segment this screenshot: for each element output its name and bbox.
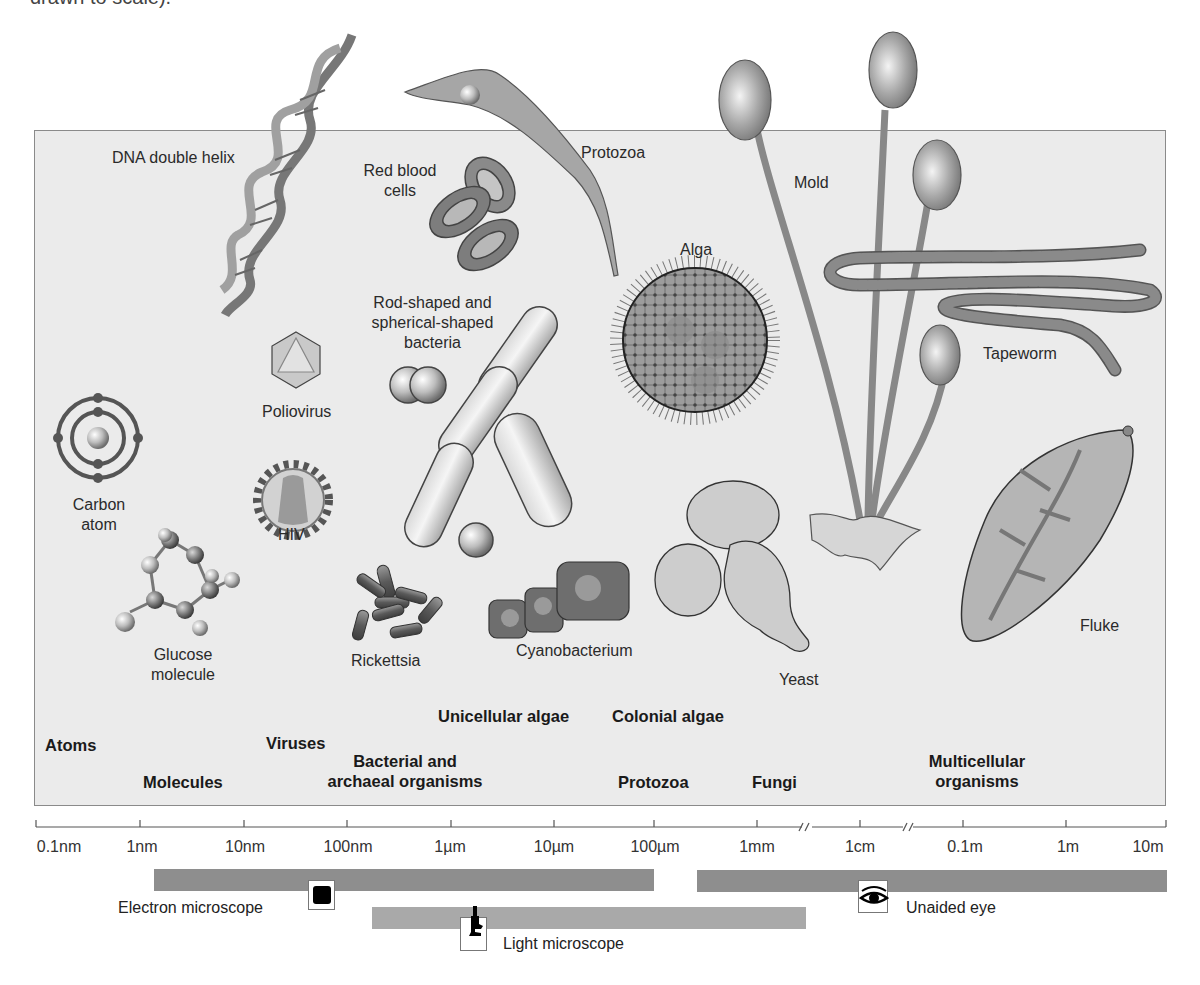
category-fungi: Fungi — [752, 772, 797, 792]
tick-label: 100µm — [630, 838, 679, 856]
electron-microscope-label: Electron microscope — [118, 899, 263, 917]
light-microscope-range-bar — [372, 907, 806, 929]
label-mold: Mold — [794, 173, 829, 193]
cyanobacterium-illustration — [489, 562, 629, 638]
fluke-illustration — [962, 426, 1133, 641]
glucose-molecule-illustration — [115, 528, 240, 636]
eye-icon — [858, 880, 888, 913]
electron-microscope-icon — [308, 880, 335, 910]
tick-label: 1m — [1057, 838, 1079, 856]
rickettsia-illustration — [351, 564, 444, 641]
label-fluke: Fluke — [1080, 616, 1119, 636]
unaided-eye-range-bar — [697, 870, 1167, 892]
category-atoms: Atoms — [45, 735, 96, 755]
light-microscope-icon — [460, 917, 487, 951]
alga-illustration — [617, 262, 773, 418]
scale-axis — [36, 820, 1166, 831]
tick-label: 1µm — [434, 838, 465, 856]
category-molecules: Molecules — [143, 772, 223, 792]
label-bacteria: Rod-shaped and spherical-shaped bacteria — [365, 293, 500, 353]
label-hiv: HIV — [278, 525, 305, 545]
axis-break-mark — [903, 823, 907, 831]
category-unicellular-algae: Unicellular algae — [438, 706, 569, 726]
label-rickettsia: Rickettsia — [351, 651, 420, 671]
poliovirus-illustration — [272, 332, 320, 388]
tick-label: 1mm — [739, 838, 775, 856]
label-dna: DNA double helix — [112, 148, 235, 168]
dna-helix-illustration — [222, 35, 352, 315]
category-multicellular: Multicellular organisms — [912, 751, 1042, 791]
label-carbon-atom: Carbon atom — [64, 495, 134, 535]
label-yeast: Yeast — [779, 670, 818, 690]
unaided-eye-label: Unaided eye — [906, 899, 996, 917]
category-protozoa: Protozoa — [618, 772, 689, 792]
light-microscope-label: Light microscope — [503, 935, 624, 953]
tick-label: 10m — [1132, 838, 1163, 856]
tick-label: 10nm — [225, 838, 265, 856]
label-glucose: Glucose molecule — [138, 645, 228, 685]
tick-label: 1nm — [126, 838, 157, 856]
label-alga: Alga — [680, 240, 712, 260]
tick-label: 10µm — [534, 838, 574, 856]
tick-label: 100nm — [324, 838, 373, 856]
label-cyanobacterium: Cyanobacterium — [516, 641, 633, 661]
yeast-illustration — [655, 481, 809, 651]
label-poliovirus: Poliovirus — [262, 402, 331, 422]
tick-label: 0.1nm — [37, 838, 81, 856]
tick-label: 1cm — [845, 838, 875, 856]
tick-label: 0.1m — [947, 838, 983, 856]
label-protozoa-specimen: Protozoa — [581, 143, 645, 163]
carbon-atom-illustration — [53, 393, 143, 483]
electron-microscope-range-bar — [154, 869, 654, 891]
label-red-blood-cells: Red blood cells — [358, 161, 442, 201]
category-bacterial-archaeal: Bacterial and archaeal organisms — [312, 751, 498, 791]
category-viruses: Viruses — [266, 733, 325, 753]
category-colonial-algae: Colonial algae — [612, 706, 724, 726]
label-tapeworm: Tapeworm — [983, 344, 1057, 364]
